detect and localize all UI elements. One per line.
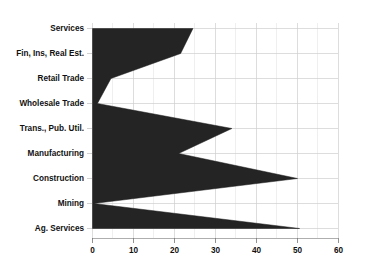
y-axis-labels: Services Fin, Ins, Real Est. Retail Trad… bbox=[16, 24, 84, 233]
chart-container: Services Fin, Ins, Real Est. Retail Trad… bbox=[0, 0, 379, 278]
y-tick-label-trans-pub-util: Trans., Pub. Util. bbox=[20, 124, 84, 133]
x-tick-label-40: 40 bbox=[252, 246, 262, 255]
x-tick-label-0: 0 bbox=[90, 246, 95, 255]
y-tick-label-mining: Mining bbox=[58, 199, 84, 208]
y-tick-label-retail-trade: Retail Trade bbox=[38, 74, 85, 83]
x-axis-labels: 0 10 20 30 40 50 60 bbox=[90, 246, 343, 255]
x-tick-label-60: 60 bbox=[334, 246, 344, 255]
category-tickmarks bbox=[87, 29, 92, 229]
x-tick-label-20: 20 bbox=[170, 246, 180, 255]
x-tick-label-30: 30 bbox=[211, 246, 221, 255]
x-tick-label-50: 50 bbox=[293, 246, 303, 255]
y-tick-label-construction: Construction bbox=[33, 174, 84, 183]
y-tick-label-wholesale-trade: Wholesale Trade bbox=[19, 99, 84, 108]
x-tick-label-10: 10 bbox=[129, 246, 139, 255]
area-chart-plot: Services Fin, Ins, Real Est. Retail Trad… bbox=[0, 0, 379, 278]
y-tick-label-ag-services: Ag. Services bbox=[35, 224, 85, 233]
y-tick-label-services: Services bbox=[50, 24, 84, 33]
y-tick-label-fin-ins-real-est: Fin, Ins, Real Est. bbox=[16, 49, 84, 58]
y-tick-label-manufacturing: Manufacturing bbox=[28, 149, 84, 158]
